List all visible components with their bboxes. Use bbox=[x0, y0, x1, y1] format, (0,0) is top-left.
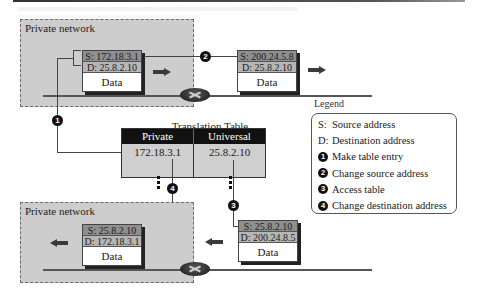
step-marker-2: 2 bbox=[200, 51, 211, 62]
legend-title: Legend bbox=[314, 98, 344, 109]
connector-line bbox=[57, 58, 73, 59]
connector-line bbox=[57, 58, 58, 153]
bracket-line bbox=[73, 50, 74, 66]
destination-address: D: 25.8.2.10 bbox=[238, 62, 296, 73]
connector-line bbox=[57, 152, 121, 153]
bleed-through-text bbox=[18, 15, 198, 18]
step-marker-4: 4 bbox=[318, 201, 328, 211]
payload: Data bbox=[83, 247, 141, 265]
packet-outgoing-universal: S: 200.24.5.8 D: 25.8.2.10 Data bbox=[237, 50, 297, 92]
table-cell-private: 172.18.3.1 bbox=[122, 144, 194, 178]
packet-outgoing-private: S: 172.18.3.1 D: 25.8.2.10 Data bbox=[82, 50, 142, 92]
destination-address: D: 25.8.2.10 bbox=[83, 62, 141, 73]
step-marker-3: 3 bbox=[318, 184, 328, 194]
connector-line bbox=[144, 56, 237, 57]
bracket-line bbox=[73, 65, 81, 66]
column-header-universal: Universal bbox=[194, 129, 265, 144]
payload: Data bbox=[238, 73, 296, 91]
bracket-line bbox=[73, 50, 81, 51]
bleed-through-text bbox=[18, 7, 298, 11]
destination-address: D: 200.24.8.5 bbox=[239, 232, 297, 243]
router-icon bbox=[180, 262, 210, 276]
payload: Data bbox=[83, 73, 141, 91]
legend-item: 3 Access table bbox=[318, 181, 450, 197]
table-cell-universal: 25.8.2.10 bbox=[194, 144, 265, 178]
arrow-right-icon bbox=[308, 66, 326, 74]
legend-item: D: Destination address bbox=[318, 132, 450, 148]
source-address: S: 25.8.2.10 bbox=[83, 225, 141, 236]
step-marker-1: 1 bbox=[52, 115, 63, 126]
legend-item: 4 Change destination address bbox=[318, 197, 450, 213]
step-marker-1: 1 bbox=[318, 152, 328, 162]
network-label: Private network bbox=[25, 205, 95, 217]
network-label: Private network bbox=[25, 22, 95, 34]
packet-incoming-universal: S: 25.8.2.10 D: 200.24.8.5 Data bbox=[238, 220, 298, 262]
source-address: S: 200.24.5.8 bbox=[238, 51, 296, 62]
legend-item: 1 Make table entry bbox=[318, 149, 450, 165]
legend-item: 2 Change source address bbox=[318, 165, 450, 181]
source-address: S: 25.8.2.10 bbox=[239, 221, 297, 232]
step-marker-4: 4 bbox=[167, 183, 178, 194]
arrow-left-icon bbox=[205, 238, 223, 246]
step-marker-3: 3 bbox=[228, 200, 239, 211]
router-icon bbox=[180, 88, 210, 102]
arrow-left-icon bbox=[50, 239, 68, 247]
ellipsis-icon bbox=[229, 174, 232, 189]
source-address: S: 172.18.3.1 bbox=[83, 51, 141, 62]
packet-incoming-private: S: 25.8.2.10 D: 172.18.3.1 Data bbox=[82, 224, 142, 266]
step-marker-2: 2 bbox=[318, 168, 328, 178]
legend-item: S: Source address bbox=[318, 116, 450, 132]
ellipsis-icon bbox=[157, 174, 160, 189]
column-header-private: Private bbox=[122, 129, 194, 144]
legend: S: Source address D: Destination address… bbox=[311, 113, 457, 214]
destination-address: D: 172.18.3.1 bbox=[83, 236, 141, 247]
top-border-bar bbox=[13, 0, 465, 2]
translation-table: Private Universal 172.18.3.1 25.8.2.10 bbox=[121, 128, 266, 178]
payload: Data bbox=[239, 243, 297, 261]
arrow-right-icon bbox=[153, 68, 171, 76]
connector-line bbox=[233, 160, 234, 226]
